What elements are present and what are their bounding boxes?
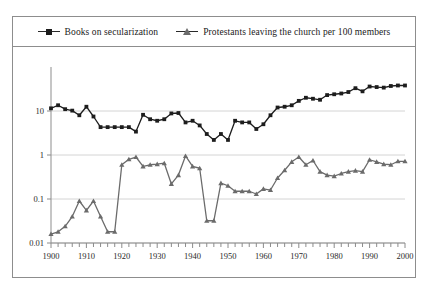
svg-text:1990: 1990 [361, 251, 378, 261]
y-axis-tick-labels: 1010.10.01 [29, 106, 44, 248]
svg-text:1: 1 [40, 150, 44, 160]
series-books-on-secularization [49, 84, 407, 142]
chart-legend: Books on secularization Protestants leav… [13, 17, 415, 47]
svg-text:1940: 1940 [184, 251, 201, 261]
legend-label-protestants: Protestants leaving the church per 100 m… [203, 27, 390, 37]
y-axis-ticks [47, 111, 51, 243]
legend-item-books[interactable]: Books on secularization [38, 27, 159, 37]
triangle-marker-icon [176, 27, 198, 37]
svg-text:0.1: 0.1 [33, 194, 44, 204]
figure-frame: Books on secularization Protestants leav… [12, 16, 416, 278]
svg-text:1960: 1960 [255, 251, 272, 261]
square-marker-icon [38, 27, 60, 37]
plot-area: 1900191019201930194019501960197019801990… [13, 47, 415, 279]
svg-text:0.01: 0.01 [29, 238, 44, 248]
svg-text:1980: 1980 [326, 251, 343, 261]
svg-text:1900: 1900 [43, 251, 60, 261]
legend-label-books: Books on secularization [65, 27, 159, 37]
svg-text:2000: 2000 [397, 251, 414, 261]
svg-text:1930: 1930 [149, 251, 166, 261]
svg-text:1950: 1950 [220, 251, 237, 261]
x-axis-ticks [51, 243, 405, 248]
legend-item-protestants[interactable]: Protestants leaving the church per 100 m… [176, 27, 390, 37]
svg-text:1910: 1910 [78, 251, 95, 261]
svg-text:1920: 1920 [113, 251, 130, 261]
x-axis-tick-labels: 1900191019201930194019501960197019801990… [43, 251, 414, 261]
svg-text:1970: 1970 [290, 251, 307, 261]
series-protestants-leaving-church [48, 153, 407, 236]
svg-text:10: 10 [36, 106, 45, 116]
chart-svg: 1900191019201930194019501960197019801990… [13, 47, 415, 279]
